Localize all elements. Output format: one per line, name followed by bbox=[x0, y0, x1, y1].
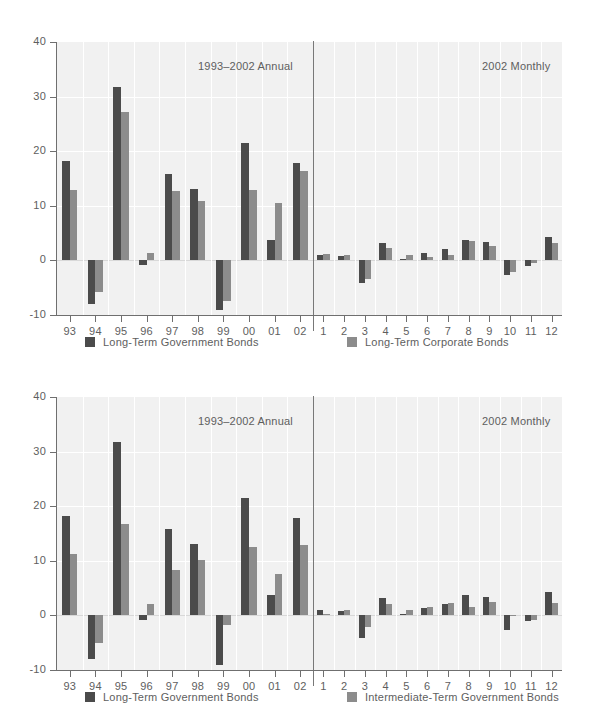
y-tick-label-40: 40 bbox=[6, 35, 46, 47]
bar-annual-s2-96 bbox=[147, 253, 155, 261]
bar-annual-s2-00 bbox=[249, 547, 257, 616]
bar-monthly-s2-3 bbox=[365, 615, 371, 626]
plot-area-bottom bbox=[57, 397, 562, 670]
gridline-x-annual-5 bbox=[185, 42, 186, 315]
bar-monthly-s2-3 bbox=[365, 260, 371, 279]
bar-monthly-s2-8 bbox=[469, 241, 475, 261]
gridline-y-20 bbox=[57, 506, 562, 507]
x-tick-label-annual-00: 00 bbox=[236, 680, 262, 692]
x-tick-mark-monthly-4 bbox=[386, 671, 387, 677]
bar-monthly-s2-4 bbox=[386, 248, 392, 261]
gridline-x-annual-8 bbox=[262, 42, 263, 315]
bar-monthly-s2-9 bbox=[489, 602, 495, 616]
y-tick-label-30: 30 bbox=[6, 445, 46, 457]
x-tick-mark-monthly-7 bbox=[448, 671, 449, 677]
x-axis-line-bottom bbox=[56, 670, 562, 671]
x-tick-label-annual-95: 95 bbox=[108, 325, 134, 337]
x-tick-mark-annual-01 bbox=[275, 316, 276, 322]
legend-swatch-series1-top bbox=[85, 337, 95, 347]
bar-annual-s1-01 bbox=[267, 595, 275, 615]
x-tick-mark-monthly-9 bbox=[489, 316, 490, 322]
x-tick-mark-annual-00 bbox=[249, 671, 250, 677]
x-tick-mark-annual-02 bbox=[300, 671, 301, 677]
bar-annual-s2-95 bbox=[121, 524, 129, 616]
gridline-x-monthly-1 bbox=[334, 397, 335, 670]
legend-entry-series1-top: Long-Term Government Bonds bbox=[85, 336, 259, 348]
legend-entry-series2-top: Long-Term Corporate Bonds bbox=[347, 336, 509, 348]
y-axis-line-top bbox=[56, 42, 57, 316]
y-tick-label-10: 10 bbox=[6, 554, 46, 566]
gridline-x-monthly-10 bbox=[521, 397, 522, 670]
bar-annual-s2-97 bbox=[172, 191, 180, 261]
x-tick-mark-monthly-2 bbox=[344, 316, 345, 322]
gridline-x-annual-4 bbox=[159, 397, 160, 670]
bar-annual-s2-02 bbox=[300, 171, 308, 260]
gridline-y-10 bbox=[57, 561, 562, 562]
y-tick-mark-0 bbox=[50, 260, 57, 261]
monthly-caption-bottom: 2002 Monthly bbox=[482, 415, 550, 427]
y-tick-mark-30 bbox=[50, 97, 57, 98]
bar-annual-s1-94 bbox=[88, 615, 96, 659]
bar-annual-s1-98 bbox=[190, 544, 198, 616]
gridline-x-monthly-8 bbox=[479, 397, 480, 670]
bar-annual-s1-95 bbox=[113, 442, 121, 615]
bar-monthly-s2-5 bbox=[406, 610, 412, 615]
x-tick-mark-annual-95 bbox=[121, 316, 122, 322]
x-tick-label-annual-93: 93 bbox=[57, 680, 83, 692]
x-tick-mark-monthly-11 bbox=[531, 316, 532, 322]
x-tick-mark-monthly-6 bbox=[427, 671, 428, 677]
gridline-x-monthly-2 bbox=[355, 42, 356, 315]
bar-annual-s1-00 bbox=[241, 143, 249, 260]
bar-annual-s1-99 bbox=[216, 615, 224, 664]
section-divider bbox=[313, 41, 314, 331]
x-tick-mark-annual-94 bbox=[95, 316, 96, 322]
bar-annual-s2-99 bbox=[223, 615, 231, 625]
gridline-x-annual-2 bbox=[108, 42, 109, 315]
legend-swatch-series2-bottom bbox=[347, 692, 357, 702]
bar-monthly-s2-10 bbox=[510, 615, 516, 616]
gridline-x-monthly-6 bbox=[438, 397, 439, 670]
y-tick-label-30: 30 bbox=[6, 90, 46, 102]
bar-annual-s1-98 bbox=[190, 189, 198, 261]
y-tick-label-0: 0 bbox=[6, 253, 46, 265]
plot-area-top bbox=[57, 42, 562, 315]
x-tick-mark-annual-95 bbox=[121, 671, 122, 677]
gridline-y-0 bbox=[57, 260, 562, 261]
bar-annual-s1-02 bbox=[293, 518, 301, 615]
x-tick-mark-monthly-2 bbox=[344, 671, 345, 677]
x-tick-mark-monthly-5 bbox=[406, 671, 407, 677]
bar-monthly-s2-6 bbox=[427, 257, 433, 260]
gridline-y-10 bbox=[57, 206, 562, 207]
gridline-x-annual-7 bbox=[236, 42, 237, 315]
gridline-x-monthly-11 bbox=[541, 42, 542, 315]
y-tick-mark-30 bbox=[50, 452, 57, 453]
bar-annual-s1-93 bbox=[62, 161, 70, 260]
bar-monthly-s2-2 bbox=[344, 255, 350, 260]
bar-monthly-s2-7 bbox=[448, 603, 454, 616]
gridline-x-annual-2 bbox=[108, 397, 109, 670]
x-tick-label-annual-96: 96 bbox=[134, 680, 160, 692]
legend-swatch-series1-bottom bbox=[85, 692, 95, 702]
x-tick-mark-monthly-12 bbox=[552, 316, 553, 322]
bar-annual-s1-96 bbox=[139, 260, 147, 265]
x-axis-line-top bbox=[56, 315, 562, 316]
monthly-caption-top: 2002 Monthly bbox=[482, 60, 550, 72]
x-tick-label-annual-02: 02 bbox=[287, 325, 313, 337]
gridline-x-annual-7 bbox=[236, 397, 237, 670]
bar-annual-s2-01 bbox=[275, 574, 283, 615]
x-tick-label-annual-98: 98 bbox=[185, 680, 211, 692]
x-tick-mark-annual-01 bbox=[275, 671, 276, 677]
y-tick-label-20: 20 bbox=[6, 499, 46, 511]
section-divider bbox=[313, 396, 314, 686]
x-tick-mark-annual-02 bbox=[300, 316, 301, 322]
y-tick-label-20: 20 bbox=[6, 144, 46, 156]
annual-caption-top: 1993–2002 Annual bbox=[198, 60, 293, 72]
gridline-x-monthly-2 bbox=[355, 397, 356, 670]
legend-entry-series2-bottom: Intermediate-Term Government Bonds bbox=[347, 691, 559, 703]
bar-annual-s1-93 bbox=[62, 516, 70, 615]
gridline-x-annual-9 bbox=[287, 42, 288, 315]
y-tick-mark-40 bbox=[50, 397, 57, 398]
y-tick-mark-0 bbox=[50, 615, 57, 616]
x-tick-mark-annual-96 bbox=[147, 671, 148, 677]
bar-annual-s2-94 bbox=[95, 260, 103, 292]
